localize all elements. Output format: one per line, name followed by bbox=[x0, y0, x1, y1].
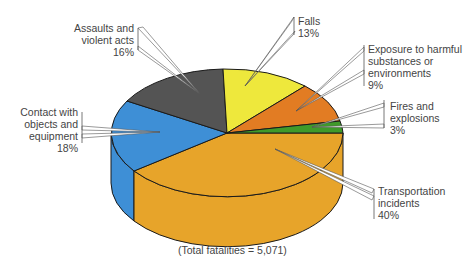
label-text: incidents bbox=[378, 197, 445, 209]
label-contact: Contact with objects and equipment 18% bbox=[4, 106, 78, 154]
label-percent: 9% bbox=[368, 79, 462, 91]
label-text: environments bbox=[368, 67, 462, 79]
total-fatalities-caption: (Total fatalities = 5,071) bbox=[178, 244, 287, 256]
label-text: Contact with bbox=[4, 106, 78, 118]
label-text: Fires and bbox=[390, 100, 440, 112]
label-text: Transportation bbox=[378, 185, 445, 197]
label-percent: 40% bbox=[378, 209, 445, 221]
label-text: explosions bbox=[390, 112, 440, 124]
label-text: Falls bbox=[298, 15, 320, 27]
label-text: violent acts bbox=[60, 34, 134, 46]
label-fires: Fires and explosions 3% bbox=[390, 100, 440, 136]
label-percent: 13% bbox=[298, 27, 320, 39]
label-assaults: Assaults and violent acts 16% bbox=[60, 22, 134, 58]
label-falls: Falls 13% bbox=[298, 15, 320, 39]
label-text: equipment bbox=[4, 130, 78, 142]
label-percent: 3% bbox=[390, 124, 440, 136]
label-exposure: Exposure to harmful substances or enviro… bbox=[368, 43, 462, 91]
label-percent: 18% bbox=[4, 142, 78, 154]
label-text: Exposure to harmful bbox=[368, 43, 462, 55]
label-transport: Transportation incidents 40% bbox=[378, 185, 445, 221]
label-text: substances or bbox=[368, 55, 462, 67]
label-percent: 16% bbox=[60, 46, 134, 58]
label-text: objects and bbox=[4, 118, 78, 130]
label-text: Assaults and bbox=[60, 22, 134, 34]
